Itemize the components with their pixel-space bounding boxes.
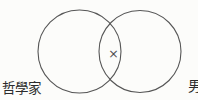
left-circle-label: 哲學家 [2,82,41,96]
intersection-x-mark: × [108,46,118,61]
venn-diagram: × 哲學家 男 [0,0,198,100]
right-circle-label: 男 [188,80,198,94]
